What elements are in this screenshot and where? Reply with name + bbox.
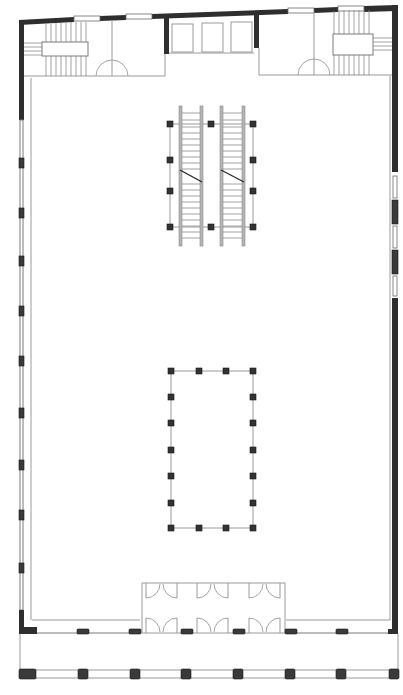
column (250, 447, 256, 453)
pier (129, 629, 141, 634)
pilaster (19, 460, 24, 470)
escalator-cut-line (180, 170, 202, 182)
corner-pier-left (19, 610, 37, 634)
arcade-column (389, 669, 399, 679)
right-wall-upper (392, 5, 398, 172)
door-swing (298, 59, 314, 75)
right-wall-lower (392, 298, 398, 634)
arcade-column (19, 669, 36, 679)
column (196, 525, 202, 531)
column (196, 368, 202, 374)
window (338, 6, 364, 11)
escalator-enclosure (170, 124, 253, 227)
column (208, 224, 214, 230)
pier (233, 629, 245, 634)
column (168, 368, 174, 374)
arcade-column (78, 669, 88, 679)
column (167, 188, 173, 194)
door-swing (163, 584, 177, 598)
column (250, 525, 256, 531)
stair-treads (24, 22, 86, 76)
stair-treads (334, 10, 392, 75)
window (393, 176, 397, 198)
door-swing (314, 59, 330, 75)
elevator-wall-right (254, 12, 259, 48)
elevator-bank (164, 12, 259, 54)
atrium-columns (168, 368, 256, 531)
column (208, 121, 214, 127)
column (223, 525, 229, 531)
window (74, 16, 100, 21)
window (288, 8, 314, 13)
vestibule-outline (142, 583, 285, 633)
column (168, 447, 174, 453)
window (393, 276, 397, 296)
column (168, 525, 174, 531)
arcade (19, 634, 399, 679)
stair-well (42, 42, 88, 56)
pier (392, 250, 398, 274)
left-wall-upper (19, 20, 24, 120)
column (250, 121, 256, 127)
arcade-column (336, 669, 346, 679)
vestibule-doors-inner (146, 618, 280, 633)
column (250, 368, 256, 374)
escalator-cut-line (221, 170, 244, 182)
column (168, 394, 174, 400)
column (250, 224, 256, 230)
stair-well (333, 34, 373, 55)
column (223, 368, 229, 374)
door-swing (214, 618, 228, 632)
pier (336, 629, 348, 634)
column (167, 157, 173, 163)
escalators (167, 106, 256, 246)
column (250, 500, 256, 506)
column (168, 420, 174, 426)
pier (77, 629, 89, 634)
arcade-column (233, 669, 243, 679)
entrance-vestibule (142, 583, 285, 633)
door-swing (266, 618, 280, 632)
arcade-column (181, 669, 191, 679)
door-swing (214, 584, 228, 598)
column (168, 473, 174, 479)
column (168, 500, 174, 506)
door-swing (96, 60, 112, 76)
right-windows (392, 176, 398, 296)
pilaster (19, 256, 24, 266)
column (250, 188, 256, 194)
pilaster (19, 356, 24, 366)
door-swing (249, 584, 263, 598)
escalator-rail (179, 106, 182, 246)
window (393, 226, 397, 248)
door-swing (249, 618, 263, 632)
outer-walls (19, 5, 398, 634)
corner-pier-right (388, 625, 398, 634)
column (167, 121, 173, 127)
escalator-rail (242, 106, 245, 246)
door-swing (112, 60, 128, 76)
column (167, 224, 173, 230)
pilaster (19, 408, 24, 418)
column (250, 394, 256, 400)
door-swing (197, 584, 211, 598)
pilaster (19, 208, 24, 218)
door-swing (197, 618, 211, 632)
elevator-car (202, 23, 223, 52)
column (250, 157, 256, 163)
door-swing (163, 618, 177, 632)
door-swing (146, 618, 160, 632)
floor-plan (0, 0, 403, 695)
escalator-rail (220, 106, 223, 246)
door-swing (146, 584, 160, 598)
top-wall-segment (152, 9, 288, 19)
atrium (168, 368, 256, 531)
elevator-car (172, 24, 193, 52)
column (250, 473, 256, 479)
escalator-rail (200, 106, 203, 246)
pier (392, 200, 398, 224)
elevator-car (231, 22, 252, 52)
window (126, 14, 152, 19)
front-piers (19, 610, 398, 634)
stair-right (259, 10, 392, 75)
